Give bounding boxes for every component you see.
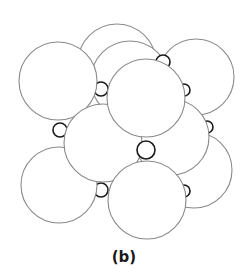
large-sphere-center-top [107,59,185,137]
large-sphere-bottom-front [108,161,186,239]
interstitial-sphere-center [137,141,155,159]
lattice-diagram [0,0,248,277]
figure-caption: (b) [0,248,248,266]
